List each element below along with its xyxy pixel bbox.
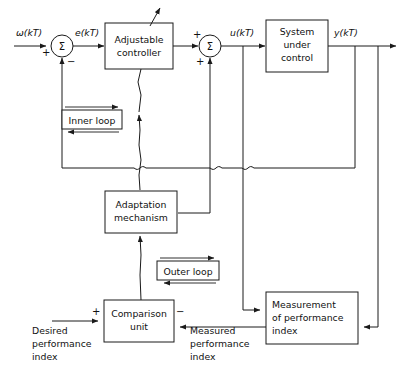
adjustable-controller-label-line1: Adjustable	[115, 34, 164, 45]
desired-performance-index-label-line2: performance	[32, 338, 92, 349]
inner-loop-label: Inner loop	[69, 115, 116, 126]
measurement-performance-index-label-line1: Measurement	[272, 299, 336, 310]
error-junction-plus-sign: +	[42, 47, 50, 58]
comparison-unit-label-line1: Comparison	[111, 308, 167, 319]
error-signal-label: e(kT)	[75, 27, 99, 38]
error-junction-minus-sign: −	[67, 56, 75, 67]
system-under-control-label-line3: control	[281, 52, 313, 63]
measurement-performance-index-label-line2: of performance	[272, 312, 344, 323]
adjustable-controller-label-line2: controller	[117, 47, 162, 58]
control-junction-sigma-symbol: Σ	[207, 41, 213, 52]
adaptation-mechanism-label-line1: Adaptation	[116, 199, 167, 210]
outer-loop-label: Outer loop	[163, 266, 212, 277]
comparison-unit-plus-sign: +	[92, 306, 100, 317]
adjustable-controller-block	[105, 23, 173, 69]
desired-performance-index-label-line1: Desired	[32, 325, 68, 336]
comparison-unit-minus-sign: −	[176, 306, 184, 317]
error-junction-sigma-symbol: Σ	[59, 41, 65, 52]
adaptation-mechanism-label-line2: mechanism	[114, 212, 168, 223]
control-signal-label: u(kT)	[230, 27, 254, 38]
output-signal-label: y(kT)	[333, 27, 358, 38]
comparison-unit-label-line2: unit	[130, 321, 148, 332]
measurement-performance-index-label-line3: index	[272, 325, 298, 336]
control-junction-plus-bottom-sign: +	[196, 56, 204, 67]
comparison-to-adaptation-line	[140, 236, 141, 300]
system-under-control-label-line1: System	[280, 26, 315, 37]
desired-performance-index-label-line3: index	[32, 351, 58, 362]
measured-performance-index-label-line1: Measured	[190, 325, 236, 336]
system-under-control-label-line2: under	[283, 39, 310, 50]
control-junction-plus-left-sign: +	[193, 29, 201, 40]
reference-signal-label: ω(kT)	[16, 27, 42, 38]
adaptive-control-block-diagram: ω(kT) + Σ − e(kT) Adjustable controller …	[0, 0, 406, 372]
measured-performance-index-label-line2: performance	[190, 338, 250, 349]
measured-performance-index-label-line3: index	[190, 351, 216, 362]
